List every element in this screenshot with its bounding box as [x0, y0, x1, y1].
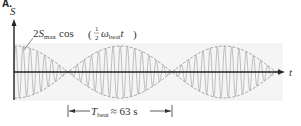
svg-text:): ): [133, 28, 137, 41]
beat-diagram: S t 2Smaxcos ( 1 2 ωbeatt ) Tbeat≈ 63 s: [0, 0, 301, 126]
x-axis-label: t: [289, 66, 293, 78]
envelope-formula: 2Smaxcos ( 1 2 ωbeatt ): [33, 25, 137, 42]
bracket-right-arrow-icon: [165, 109, 171, 113]
svg-text:2: 2: [95, 34, 99, 42]
svg-text:Tbeat≈ 63 s: Tbeat≈ 63 s: [91, 105, 138, 119]
beat-period-bracket: Tbeat≈ 63 s: [68, 105, 172, 119]
y-axis-label: S: [10, 5, 16, 17]
svg-text:1: 1: [95, 25, 99, 33]
svg-text:(: (: [88, 28, 92, 41]
svg-text:ωbeatt: ωbeatt: [101, 27, 124, 41]
bracket-left-arrow-icon: [69, 109, 75, 113]
y-axis-arrow-icon: [12, 19, 17, 26]
svg-text:2Smaxcos: 2Smaxcos: [33, 27, 74, 41]
